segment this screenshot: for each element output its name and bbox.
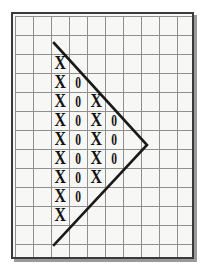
cell-glyph-x: X bbox=[88, 149, 104, 168]
cell-glyph-x: X bbox=[52, 111, 68, 130]
cell-glyph-x: X bbox=[52, 168, 68, 187]
cell-glyph-zero: 0 bbox=[72, 73, 85, 92]
cell-glyph-zero: 0 bbox=[108, 149, 121, 168]
cell-glyph-x: X bbox=[52, 54, 68, 73]
cell-glyph-zero: 0 bbox=[72, 187, 85, 206]
cell-glyph-x: X bbox=[88, 111, 104, 130]
cell-glyph-layer: XX0X0XX0X0X0X0X0X0X0XX0X bbox=[13, 14, 196, 261]
cell-glyph-zero: 0 bbox=[72, 168, 85, 187]
cell-glyph-x: X bbox=[88, 130, 104, 149]
rasterized-triangle-figure: XX0X0XX0X0X0X0X0X0X0XX0X bbox=[0, 0, 208, 276]
cell-glyph-x: X bbox=[88, 92, 104, 111]
cell-glyph-x: X bbox=[52, 187, 68, 206]
cell-glyph-x: X bbox=[52, 73, 68, 92]
cell-glyph-zero: 0 bbox=[108, 111, 121, 130]
cell-glyph-x: X bbox=[52, 149, 68, 168]
cell-glyph-zero: 0 bbox=[108, 130, 121, 149]
grid-panel: XX0X0XX0X0X0X0X0X0X0XX0X bbox=[11, 12, 194, 259]
cell-glyph-zero: 0 bbox=[72, 149, 85, 168]
cell-glyph-zero: 0 bbox=[72, 111, 85, 130]
cell-glyph-x: X bbox=[88, 168, 104, 187]
cell-glyph-x: X bbox=[52, 130, 68, 149]
cell-glyph-x: X bbox=[52, 206, 68, 225]
cell-glyph-zero: 0 bbox=[72, 92, 85, 111]
cell-glyph-zero: 0 bbox=[72, 130, 85, 149]
cell-glyph-x: X bbox=[52, 92, 68, 111]
